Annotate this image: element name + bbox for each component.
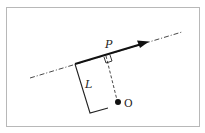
label-lever-arm: L (84, 78, 92, 91)
label-origin: O (124, 97, 133, 109)
origin-point (115, 99, 121, 105)
right-angle-marker (104, 55, 112, 63)
label-momentum: P (104, 38, 113, 51)
arrowhead-icon (137, 41, 149, 49)
angular-momentum-diagram: P L O (0, 0, 205, 133)
